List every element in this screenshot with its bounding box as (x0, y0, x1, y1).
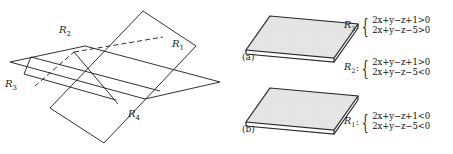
equation-label-r1: R1 (344, 115, 355, 129)
edge-lower-top (31, 57, 160, 91)
equation-colon-r3: : (356, 20, 359, 31)
panels-column: (a) (b) R3 : (236, 0, 453, 154)
panel-caption-a: (a) (242, 52, 254, 62)
intersection-hidden-upper (74, 37, 163, 52)
equation-lines-r1: 2x+y−z+1<0 2x+y−z−5<0 (372, 112, 430, 131)
equation-lines-r2: 2x+y−z+1>0 2x+y−z−5<0 (372, 58, 430, 77)
plane-tilted (50, 11, 196, 143)
planes-diagram: R1 R2 R3 R4 (0, 0, 240, 154)
equation-colon-r1: : (356, 116, 359, 127)
equation-group-r1: R1 : { 2x+y−z+1<0 2x+y−z−5<0 (344, 112, 430, 131)
intersection-hidden-lower (35, 52, 74, 86)
equation-colon-r2: : (356, 62, 359, 73)
region-label-r4: R4 (128, 108, 140, 122)
equation-group-r3: R3 : { 2x+y−z+1>0 2x+y−z−5>0 (344, 16, 430, 35)
planes-svg (0, 0, 240, 154)
equation-brace-r1: { (362, 118, 369, 126)
equation-lines-r3: 2x+y−z+1>0 2x+y−z−5>0 (372, 16, 430, 35)
panel-caption-b: (b) (242, 124, 255, 134)
edge-lower-left (24, 57, 31, 74)
figure-planes-regions: R1 R2 R3 R4 (0, 0, 453, 154)
region-label-r1: R1 (172, 38, 184, 52)
equation-line: 2x+y−z−5<0 (372, 122, 430, 132)
region-label-r2: R2 (59, 24, 71, 38)
equation-brace-r2: { (362, 64, 369, 72)
equation-label-r3: R3 (344, 19, 355, 33)
equation-line: 2x+y−z−5<0 (372, 68, 430, 78)
equation-line: 2x+y−z−5>0 (372, 26, 430, 36)
equation-brace-r3: { (362, 22, 369, 30)
equation-group-r2: R2 : { 2x+y−z+1>0 2x+y−z−5<0 (344, 58, 430, 77)
region-label-r3: R3 (5, 78, 17, 92)
equation-label-r2: R2 (344, 61, 355, 75)
